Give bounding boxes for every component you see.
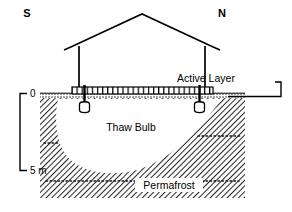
pile-left-footing — [80, 102, 90, 113]
permafrost-label: Permafrost — [143, 179, 194, 191]
depth-scale-bracket — [20, 94, 27, 171]
compass-label-north: N — [218, 7, 226, 19]
compass-label-south: S — [23, 7, 30, 19]
elevated-floor-deck — [72, 87, 213, 94]
gable-roof — [73, 14, 211, 46]
active-layer-label: Active Layer — [177, 72, 235, 84]
pile-right-footing — [195, 102, 205, 113]
permafrost-thaw-bulb-diagram: S N 0 5 m Active Layer Thaw Bulb Permafr… — [0, 0, 292, 212]
depth-scale-bracket-path — [20, 94, 27, 171]
roof-eave-left — [64, 46, 73, 50]
floor-deck-beam — [72, 87, 213, 94]
depth-scale-label-top: 0 — [30, 88, 36, 99]
thaw-bulb-label: Thaw Bulb — [106, 121, 156, 133]
depth-scale-label-bottom: 5 m — [30, 165, 47, 176]
roof-eave-right — [211, 46, 220, 50]
